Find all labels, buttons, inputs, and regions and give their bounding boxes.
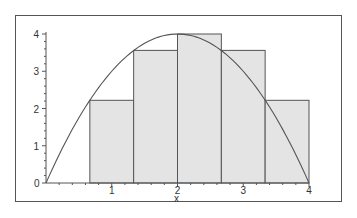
origin-label: 0 [34,178,40,189]
x-tick-label-3: 3 [240,185,246,196]
bar-1 [90,100,134,183]
riemann-sum-plot: 12341234 0 x [0,0,357,218]
y-tick-label-1: 1 [33,141,39,152]
bar-3 [178,34,222,183]
x-axis-label: x [174,193,179,204]
x-tick-label-4: 4 [306,185,312,196]
bars-group [90,34,309,183]
bar-2 [134,50,178,183]
x-tick-label-1: 1 [109,185,115,196]
y-tick-label-4: 4 [33,29,39,40]
y-tick-label-2: 2 [33,104,39,115]
bar-4 [221,50,265,183]
bar-5 [265,100,309,183]
y-tick-label-3: 3 [33,66,39,77]
